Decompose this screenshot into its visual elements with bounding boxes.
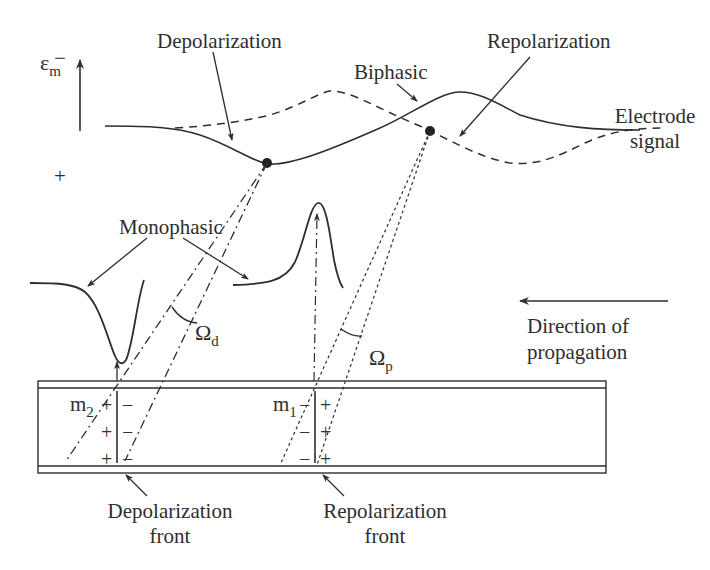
dipole-m1-symbol: m: [273, 392, 289, 416]
m2-right-sign-2: −: [122, 422, 133, 442]
monophasic-right-arrow: [183, 238, 248, 279]
dipole-m2-label: m2: [70, 392, 94, 419]
m1-right-sign-3: +: [320, 449, 331, 469]
biphasic-signal-dashed-curve: [175, 91, 665, 164]
electrode-signal-line1: Electrode: [600, 104, 710, 129]
m1-right-sign-2: +: [320, 422, 331, 442]
depolarization-front-label: Depolarization front: [80, 499, 260, 549]
m1-left-sign-3: −: [299, 449, 310, 469]
repolarization-front-arrow: [323, 475, 344, 496]
omega-d-label: Ωd: [195, 320, 219, 348]
depolarization-front-line2: front: [80, 524, 260, 549]
repolarization-front-line1: Repolarization: [300, 499, 470, 524]
epsilon-subscript: m: [49, 63, 61, 79]
depolarization-front-line1: Depolarization: [80, 499, 260, 524]
omega-d-arc: [172, 307, 197, 323]
m2-left-sign-3: +: [101, 449, 112, 469]
monophasic-positive-waveform: [233, 203, 343, 288]
positive-peak-marker: [314, 214, 317, 381]
direction-of-propagation-label: Direction of propagation: [527, 313, 629, 365]
biphasic-signal-solid-curve: [105, 92, 640, 164]
m1-left-sign-2: −: [299, 422, 310, 442]
repolarization-label-arrow: [460, 57, 530, 136]
omega-subscript: d: [211, 333, 219, 349]
m2-right-sign-3: −: [122, 449, 133, 469]
electrode-signal-line2: signal: [600, 129, 710, 154]
biphasic-label: Biphasic: [354, 60, 428, 85]
electrode-signal-label: Electrode signal: [600, 104, 710, 154]
m2-left-sign-1: +: [101, 395, 112, 415]
epsilon-symbol: ε: [40, 50, 49, 75]
diagram-drawing: [0, 0, 710, 570]
direction-line1: Direction of: [527, 313, 629, 339]
monophasic-negative-waveform: [30, 280, 144, 363]
potential-axis-label: εm: [40, 50, 61, 78]
m1-left-sign-1: −: [299, 395, 310, 415]
extracellular-potential-diagram: − εm + Depolarization Repolarization Bip…: [0, 0, 710, 570]
omega-symbol: Ω: [195, 320, 211, 345]
repolarization-front-line2: front: [300, 524, 470, 549]
depolarization-label: Depolarization: [157, 29, 282, 54]
dipole-m1-label: m1: [273, 392, 297, 419]
dipole-m2-symbol: m: [70, 392, 86, 416]
depolarization-label-arrow: [213, 52, 232, 140]
omega-p-label: Ωp: [369, 345, 393, 373]
monophasic-left-arrow: [88, 238, 147, 286]
m2-right-sign-1: −: [122, 395, 133, 415]
depolarization-solid-angle-rays: [66, 163, 267, 461]
axis-positive-sign: +: [54, 164, 66, 189]
omega-subscript: p: [385, 358, 393, 374]
m1-right-sign-1: +: [320, 395, 331, 415]
omega-p-arc: [341, 329, 362, 336]
omega-symbol: Ω: [369, 345, 385, 370]
biphasic-label-arrow: [397, 84, 417, 101]
repolarization-front-label: Repolarization front: [300, 499, 470, 549]
depolarization-front-arrow: [126, 475, 147, 496]
direction-line2: propagation: [527, 339, 629, 365]
repolarization-label: Repolarization: [487, 29, 611, 54]
m2-left-sign-2: +: [101, 422, 112, 442]
monophasic-label: Monophasic: [119, 215, 223, 240]
dipole-m2-subscript: 2: [86, 404, 94, 420]
dipole-m1-subscript: 1: [289, 404, 297, 420]
